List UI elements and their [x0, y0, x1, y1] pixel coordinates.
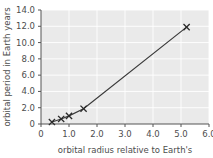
tick-label-y: 12.0 — [16, 21, 35, 31]
tick-label-y: 10.0 — [16, 38, 35, 48]
orbital-period-vs-radius-chart: 01.02.03.04.05.06.0 02.04.06.08.010.012.… — [0, 0, 213, 158]
x-axis-tick-labels: 01.02.03.04.05.06.0 — [38, 129, 213, 139]
tick-label-x: 1.0 — [62, 129, 76, 139]
chart-container: 01.02.03.04.05.06.0 02.04.06.08.010.012.… — [0, 0, 213, 158]
tick-label-x: 6.0 — [202, 129, 213, 139]
tick-label-y: 2.0 — [21, 103, 35, 113]
tick-label-y: 14.0 — [16, 5, 35, 15]
y-axis-title: orbital period in Earth years — [2, 7, 12, 127]
y-axis-tick-labels: 02.04.06.08.010.012.014.0 — [16, 5, 35, 129]
tick-label-x: 5.0 — [174, 129, 188, 139]
tick-label-x: 0 — [38, 129, 43, 139]
tick-label-y: 8.0 — [21, 54, 35, 64]
tick-label-x: 4.0 — [146, 129, 160, 139]
tick-label-y: 4.0 — [21, 86, 35, 96]
tick-label-y: 0 — [30, 119, 35, 129]
tick-label-x: 2.0 — [90, 129, 104, 139]
x-axis-title: orbital radius relative to Earth's — [58, 145, 193, 155]
tick-label-y: 6.0 — [21, 70, 35, 80]
tick-label-x: 3.0 — [118, 129, 132, 139]
